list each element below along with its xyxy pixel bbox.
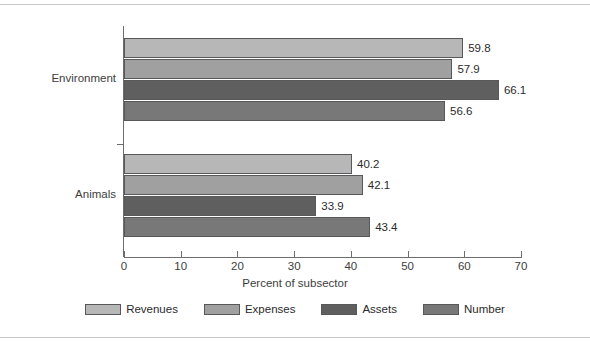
legend-label: Number bbox=[464, 303, 505, 315]
y-axis-group-separator-tick bbox=[117, 144, 123, 145]
legend-swatch-expenses bbox=[204, 304, 240, 315]
bar-value-label: 66.1 bbox=[504, 80, 526, 100]
legend-item-number[interactable]: Number bbox=[423, 303, 505, 315]
bar-value-label: 57.9 bbox=[457, 59, 479, 79]
x-axis-tick bbox=[124, 251, 125, 257]
bar-value-label: 40.2 bbox=[357, 154, 379, 174]
category-label-animals: Animals bbox=[6, 188, 116, 200]
bottom-divider-rule bbox=[0, 337, 590, 338]
bar-assets-animals bbox=[124, 196, 316, 216]
bar-assets-environment bbox=[124, 80, 499, 100]
category-label-environment: Environment bbox=[6, 72, 116, 84]
bar-value-label: 43.4 bbox=[375, 217, 397, 237]
bar-value-label: 59.8 bbox=[468, 38, 490, 58]
x-axis-tick-label: 40 bbox=[344, 260, 357, 272]
x-axis-tick bbox=[464, 251, 465, 257]
legend-label: Revenues bbox=[126, 303, 178, 315]
x-axis-tick bbox=[521, 251, 522, 257]
legend-swatch-number bbox=[423, 304, 459, 315]
legend-swatch-assets bbox=[321, 304, 357, 315]
bar-expenses-environment bbox=[124, 59, 452, 79]
legend-label: Assets bbox=[362, 303, 397, 315]
bar-number-animals bbox=[124, 217, 370, 237]
bar-value-label: 42.1 bbox=[368, 175, 390, 195]
x-axis-tick bbox=[408, 251, 409, 257]
x-axis-tick-label: 20 bbox=[231, 260, 244, 272]
x-axis-tick-label: 10 bbox=[174, 260, 187, 272]
x-axis-tick bbox=[181, 251, 182, 257]
legend-item-revenues[interactable]: Revenues bbox=[85, 303, 178, 315]
plot-area: 59.857.966.156.640.242.133.943.4 bbox=[124, 26, 521, 257]
x-axis-tick-label: 50 bbox=[401, 260, 414, 272]
x-axis-tick-label: 30 bbox=[288, 260, 301, 272]
x-axis-tick-label: 70 bbox=[515, 260, 528, 272]
legend-label: Expenses bbox=[245, 303, 296, 315]
legend-item-expenses[interactable]: Expenses bbox=[204, 303, 296, 315]
bar-number-environment bbox=[124, 101, 445, 121]
bar-expenses-animals bbox=[124, 175, 363, 195]
bar-revenues-animals bbox=[124, 154, 352, 174]
legend-item-assets[interactable]: Assets bbox=[321, 303, 397, 315]
bar-value-label: 56.6 bbox=[450, 101, 472, 121]
x-axis-tick bbox=[237, 251, 238, 257]
x-axis-tick-label: 60 bbox=[458, 260, 471, 272]
bar-revenues-environment bbox=[124, 38, 463, 58]
x-axis-tick bbox=[351, 251, 352, 257]
chart-legend: RevenuesExpensesAssetsNumber bbox=[0, 303, 590, 315]
x-axis-tick bbox=[294, 251, 295, 257]
x-axis-title: Percent of subsector bbox=[0, 277, 590, 289]
bar-value-label: 33.9 bbox=[321, 196, 343, 216]
legend-swatch-revenues bbox=[85, 304, 121, 315]
top-divider-rule bbox=[0, 4, 590, 5]
chart-figure: EnvironmentAnimals 59.857.966.156.640.24… bbox=[0, 0, 590, 348]
x-axis-line bbox=[124, 257, 522, 258]
x-axis-tick-label: 0 bbox=[121, 260, 127, 272]
